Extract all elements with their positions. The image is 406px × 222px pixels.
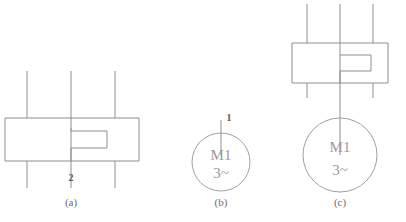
caption-a: (a) (65, 196, 78, 209)
panel-b: 1 M1 3~ (b) (192, 112, 250, 209)
terminal-label-b: 1 (227, 112, 232, 123)
motor-designation-b: M1 (211, 147, 232, 163)
motor-designation-c: M1 (330, 139, 351, 155)
device-notch-outline-c (340, 43, 371, 83)
caption-c: (c) (334, 196, 347, 209)
motor-type-c: 3~ (332, 162, 348, 178)
device-notch-outline-a (71, 118, 107, 161)
caption-b: (b) (215, 196, 228, 209)
panel-a: 2 (a) (5, 71, 139, 209)
schematic-figure: 2 (a) 1 M1 3~ (b) (0, 0, 406, 222)
panel-c: M1 3~ (c) (292, 4, 388, 209)
device-body-outline-a (5, 118, 139, 161)
motor-type-b: 3~ (213, 165, 229, 181)
figure-container: 2 (a) 1 M1 3~ (b) (0, 0, 406, 222)
terminal-label-a: 2 (69, 172, 74, 183)
